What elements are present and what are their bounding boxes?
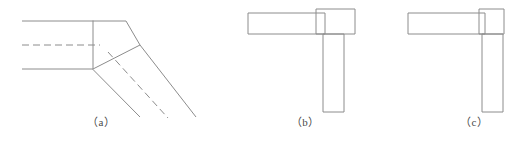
branch-centreline xyxy=(108,52,168,118)
diagram-panel-c: （c） xyxy=(390,0,526,146)
figure-container: （a） （b） （c） xyxy=(0,0,526,146)
miter-face-upper xyxy=(126,21,140,45)
diagram-panel-b: （b） xyxy=(230,0,380,146)
horizontal-bar xyxy=(248,13,325,34)
panel-b-caption: （b） xyxy=(230,113,380,129)
miter-face-inner xyxy=(93,45,140,69)
vertical-stem xyxy=(482,34,503,112)
panel-a-caption: （a） xyxy=(0,113,206,129)
panel-c-caption: （c） xyxy=(406,113,526,129)
vertical-stem xyxy=(323,34,344,112)
branch-upper-rail xyxy=(140,45,196,117)
diagram-panel-a: （a） xyxy=(0,0,210,146)
branch-lower-rail xyxy=(93,70,140,118)
horizontal-bar xyxy=(408,13,485,34)
